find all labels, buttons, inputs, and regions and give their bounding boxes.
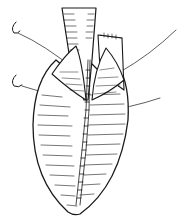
surgical-illustration — [0, 0, 181, 224]
thread-upper-right — [120, 30, 176, 72]
needle-icon — [12, 22, 22, 87]
